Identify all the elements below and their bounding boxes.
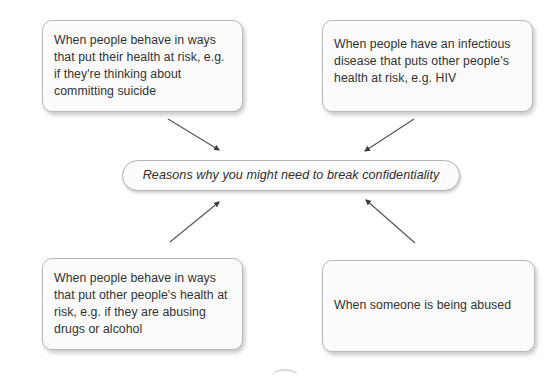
- node-health-risk-self: When people behave in ways that put thei…: [42, 20, 243, 112]
- arrow-from-health-risk-self: [168, 119, 219, 150]
- arrow-from-someone-abused: [366, 200, 415, 243]
- arrow-from-health-risk-others: [170, 202, 219, 242]
- node-someone-abused: When someone is being abused: [322, 260, 535, 352]
- node-someone-abused-label: When someone is being abused: [323, 297, 534, 314]
- node-central-reasons: Reasons why you might need to break conf…: [122, 160, 460, 191]
- node-infectious-disease-label: When people have an infectious disease t…: [323, 36, 532, 88]
- node-health-risk-others: When people behave in ways that put othe…: [42, 258, 243, 350]
- node-health-risk-others-label: When people behave in ways that put othe…: [43, 270, 242, 339]
- node-infectious-disease: When people have an infectious disease t…: [322, 20, 533, 112]
- arrow-from-infectious-disease: [365, 119, 414, 151]
- scan-artifact: [272, 369, 298, 376]
- node-health-risk-self-label: When people behave in ways that put thei…: [43, 32, 242, 101]
- diagram-canvas: When people behave in ways that put thei…: [0, 0, 557, 380]
- node-central-label: Reasons why you might need to break conf…: [123, 168, 459, 183]
